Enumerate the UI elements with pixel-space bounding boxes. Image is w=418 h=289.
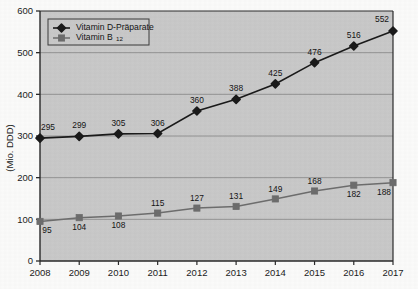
y-tick-label: 400	[17, 89, 33, 100]
x-tick-label: 2013	[226, 267, 247, 278]
data-point-marker	[115, 213, 121, 219]
data-point-marker	[351, 182, 357, 188]
data-label: 516	[347, 30, 361, 40]
y-tick-label: 100	[17, 214, 33, 225]
data-point-marker	[311, 188, 317, 194]
data-point-marker	[233, 203, 239, 209]
y-tick-label: 300	[17, 130, 33, 141]
legend-item-label-subscript: 12	[116, 35, 123, 42]
data-label: 295	[41, 122, 55, 132]
chart-page: 0100200300400500600 (Mio. DDD) 200820092…	[0, 0, 418, 289]
x-tick-label: 2008	[29, 267, 50, 278]
data-point-marker	[272, 196, 278, 202]
line-chart: 0100200300400500600 (Mio. DDD) 200820092…	[0, 0, 418, 289]
x-tick-label: 2012	[186, 267, 207, 278]
x-tick-label: 2017	[382, 267, 403, 278]
data-label: 306	[151, 118, 165, 128]
data-label: 131	[229, 191, 243, 201]
x-axis-ticks: 2008200920102011201220132014201520162017	[29, 261, 403, 278]
x-tick-label: 2015	[304, 267, 325, 278]
y-tick-label: 600	[17, 5, 33, 16]
data-point-marker	[155, 210, 161, 216]
y-tick-label: 200	[17, 172, 33, 183]
y-axis-ticks: 0100200300400500600	[17, 5, 40, 266]
data-label: 95	[42, 225, 52, 235]
x-tick-label: 2010	[108, 267, 129, 278]
data-label: 188	[377, 187, 391, 197]
x-tick-label: 2011	[147, 267, 167, 278]
data-label: 115	[151, 198, 165, 208]
data-label: 127	[190, 193, 204, 203]
y-tick-label: 500	[17, 47, 33, 58]
data-label: 108	[111, 220, 125, 230]
legend-item-label: Vitamin B	[76, 32, 113, 42]
x-tick-label: 2016	[343, 267, 364, 278]
data-point-marker	[390, 180, 396, 186]
data-point-marker	[58, 35, 64, 41]
data-point-marker	[76, 215, 82, 221]
y-axis-title: (Mio. DDD)	[4, 124, 15, 172]
x-tick-label: 2009	[69, 267, 90, 278]
data-point-marker	[194, 205, 200, 211]
data-label: 388	[229, 83, 243, 93]
data-label: 552	[375, 14, 389, 24]
data-label: 476	[308, 47, 322, 57]
chart-legend[interactable]: Vitamin D-PräparateVitamin B12	[48, 19, 154, 45]
data-label: 182	[347, 189, 361, 199]
y-tick-label: 0	[28, 255, 33, 266]
legend-item-label: Vitamin D-Präparate	[76, 22, 154, 32]
data-point-marker	[37, 218, 43, 224]
x-tick-label: 2014	[265, 267, 286, 278]
data-label: 305	[111, 118, 125, 128]
data-label: 425	[268, 68, 282, 78]
data-label: 168	[308, 176, 322, 186]
data-label: 360	[190, 95, 204, 105]
data-label: 149	[268, 184, 282, 194]
data-label: 104	[72, 222, 86, 232]
data-label: 299	[72, 120, 86, 130]
